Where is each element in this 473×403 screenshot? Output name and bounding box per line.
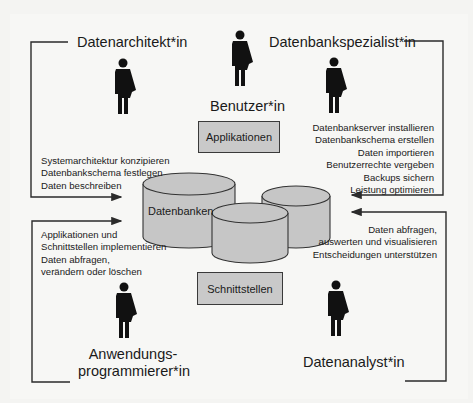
role-title-user: Benutzer*in — [210, 98, 285, 115]
task-item: verändern oder löschen — [41, 266, 166, 278]
task-item: Entscheidungen unterstützen — [300, 249, 437, 261]
role-title-app-developer: Anwendungs- programmierer*in — [78, 346, 188, 380]
task-item: Systemarchitektur konzipieren — [41, 155, 170, 167]
person-icon-data-analyst — [325, 280, 351, 338]
task-item: Datenbankschema festlegen — [41, 167, 170, 179]
role-title-line-1: Anwendungs- — [78, 346, 188, 363]
applications-box: Applikationen — [198, 121, 280, 153]
role-title-data-analyst: Datenanalyst*in — [303, 354, 405, 371]
role-title-db-specialist: Datenbankspezialist*in — [269, 34, 416, 51]
task-item: Daten beschreiben — [41, 180, 170, 192]
task-item: Daten abfragen, — [300, 224, 437, 236]
task-item: Backups sichern — [300, 172, 434, 184]
task-item: Leistung optimieren — [300, 184, 434, 196]
interfaces-box: Schnittstellen — [197, 272, 283, 305]
task-item: Datenbankserver installieren — [300, 122, 434, 134]
tasks-app-developer: Applikationen und Schnittstellen impleme… — [41, 229, 166, 279]
databases-label: Datenbanken — [148, 205, 213, 217]
person-icon-user — [229, 30, 255, 88]
task-item: auswerten und visualisieren — [300, 236, 437, 248]
person-icon-data-architect — [112, 58, 138, 116]
tasks-data-analyst: Daten abfragen, auswerten und visualisie… — [300, 224, 437, 261]
task-item: Datenbankschema erstellen — [300, 134, 434, 146]
role-title-line-2: programmierer*in — [78, 363, 188, 380]
person-icon-db-specialist — [323, 57, 349, 115]
task-item: Daten abfragen, — [41, 254, 166, 266]
task-item: Applikationen und — [41, 229, 166, 241]
role-title-data-architect: Datenarchitekt*in — [77, 34, 187, 51]
task-item: Daten importieren — [300, 147, 434, 159]
tasks-db-specialist: Datenbankserver installieren Datenbanksc… — [300, 122, 434, 196]
person-icon-app-developer — [113, 282, 139, 340]
task-item: Benutzerrechte vergeben — [300, 159, 434, 171]
task-item: Schnittstellen implementieren — [41, 241, 166, 253]
tasks-data-architect: Systemarchitektur konzipieren Datenbanks… — [41, 155, 170, 192]
